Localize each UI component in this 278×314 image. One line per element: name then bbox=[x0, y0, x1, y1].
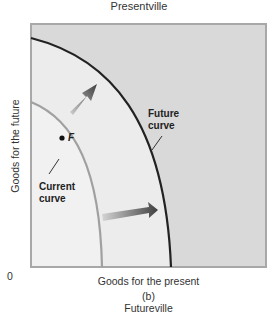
point-f-marker bbox=[59, 135, 64, 140]
origin-label: 0 bbox=[7, 270, 13, 282]
y-axis-label: Goods for the future bbox=[9, 76, 21, 216]
panel-label: (b) bbox=[31, 290, 266, 302]
ppf-diagram bbox=[0, 0, 278, 314]
future-curve-label: Future curve bbox=[148, 108, 179, 132]
x-axis-label: Goods for the present bbox=[31, 275, 266, 287]
point-f-label: F bbox=[68, 132, 74, 144]
current-curve-label: Current curve bbox=[39, 181, 75, 205]
current-curve-label-line1: Current bbox=[39, 181, 75, 193]
future-curve-label-line2: curve bbox=[148, 120, 179, 132]
current-curve-label-line2: curve bbox=[39, 193, 75, 205]
future-curve-label-line1: Future bbox=[148, 108, 179, 120]
bottom-title: Futureville bbox=[31, 302, 266, 314]
